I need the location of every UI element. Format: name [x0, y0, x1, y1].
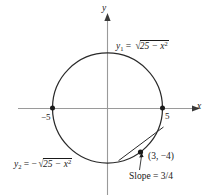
upper-equation-radicand-exponent: 2 — [165, 40, 168, 47]
lower-equation-radicand-body: 25 − x — [43, 159, 68, 169]
upper-equation-equals: = — [126, 41, 131, 51]
slope-leader-line — [140, 156, 142, 170]
slope-annotation-label: Slope = 3/4 — [129, 172, 173, 182]
point-marker-5 — [160, 106, 165, 111]
y-axis-arrowhead — [104, 13, 110, 21]
y-axis-label: y — [102, 4, 106, 14]
lower-equation-radical: √25 − x2 — [37, 158, 72, 170]
x-axis-label: x — [197, 102, 201, 112]
point-marker-3-neg4 — [138, 149, 143, 154]
upper-equation-lhs-subscript: 1 — [120, 45, 123, 52]
upper-equation-label: y1 = √25 − x2 — [116, 40, 169, 52]
lower-equation-equals: = — [24, 159, 29, 169]
lower-equation-radicand: 25 − x2 — [43, 158, 72, 169]
lower-equation-label: y2 = −√25 − x2 — [14, 158, 72, 170]
lower-equation-radicand-exponent: 2 — [68, 158, 71, 165]
math-figure: y x −5 5 y1 = √25 − x2 y2 = −√25 − x2 (3… — [0, 0, 209, 195]
upper-equation-radical: √25 − x2 — [134, 40, 169, 52]
upper-equation-radicand: 25 − x2 — [140, 40, 169, 51]
lower-equation-lhs-subscript: 2 — [18, 163, 21, 170]
upper-equation-radicand-body: 25 − x — [140, 41, 165, 51]
point-marker-neg5 — [50, 106, 55, 111]
x-tick-label-five: 5 — [165, 112, 170, 121]
x-tick-label-negative-five: −5 — [41, 113, 51, 122]
point-coordinate-label: (3, −4) — [148, 152, 174, 162]
